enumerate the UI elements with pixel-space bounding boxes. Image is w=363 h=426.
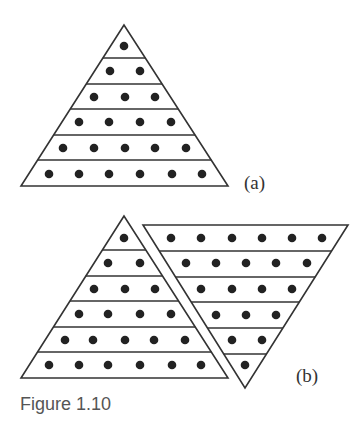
dot (104, 361, 113, 370)
dot (45, 170, 54, 179)
dot (242, 311, 251, 320)
dot (90, 144, 99, 153)
dot (120, 42, 129, 51)
dot (121, 336, 130, 345)
dot (75, 170, 84, 179)
dot (136, 259, 145, 268)
dot (90, 285, 99, 294)
dot (258, 336, 267, 345)
dot (136, 310, 145, 319)
dot (136, 67, 145, 76)
dot (168, 170, 177, 179)
dot (150, 336, 159, 345)
dot (151, 144, 160, 153)
dot (198, 170, 207, 179)
dot (181, 336, 190, 345)
dot (75, 118, 84, 127)
dot (104, 310, 113, 319)
panel-a-triangle-dots (21, 25, 228, 186)
dot (104, 259, 113, 268)
dot (105, 170, 114, 179)
dot (272, 311, 281, 320)
dot (212, 259, 221, 268)
dot (151, 93, 160, 102)
dot (288, 285, 297, 294)
dot (120, 234, 129, 243)
dot (136, 361, 145, 370)
dot (288, 234, 297, 243)
dot (45, 361, 54, 370)
dot (90, 93, 99, 102)
figure-svg: (a) (b) (0, 0, 363, 426)
dot (242, 259, 251, 268)
dot (197, 285, 206, 294)
dot (212, 311, 221, 320)
dot (136, 118, 145, 127)
dot (228, 285, 237, 294)
dot (228, 336, 237, 345)
dot (272, 259, 281, 268)
dot (105, 118, 114, 127)
dot (241, 361, 250, 370)
dot (228, 234, 237, 243)
dot (258, 285, 267, 294)
dot (182, 259, 191, 268)
dot (197, 234, 206, 243)
dot (168, 361, 177, 370)
dot (258, 234, 267, 243)
dot (121, 285, 130, 294)
panel-b-parallelogram-dots (21, 216, 348, 388)
dot (61, 336, 70, 345)
dot (121, 93, 130, 102)
dot (167, 118, 176, 127)
dot (151, 285, 160, 294)
dot (106, 67, 115, 76)
dot (303, 259, 312, 268)
dot (318, 234, 327, 243)
dot (59, 144, 68, 153)
dot (89, 336, 98, 345)
dot (121, 144, 130, 153)
dot (167, 234, 176, 243)
dot (197, 361, 206, 370)
panel-b-label: (b) (296, 365, 318, 387)
dot (182, 144, 191, 153)
dot (75, 310, 84, 319)
figure-caption: Figure 1.10 (20, 394, 111, 415)
dot (167, 310, 176, 319)
dot (75, 361, 84, 370)
dot (136, 170, 145, 179)
panel-a-label: (a) (244, 172, 265, 194)
